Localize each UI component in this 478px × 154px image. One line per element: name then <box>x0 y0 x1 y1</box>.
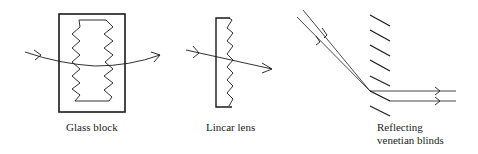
blinds-ray-lower <box>297 17 456 101</box>
blinds-arrow-2 <box>316 36 320 45</box>
linear-lens-figure <box>186 18 272 107</box>
linear-lens-serrations <box>227 18 233 106</box>
venetian-blinds-figure <box>297 10 456 116</box>
glass-block-prism-profile <box>72 20 113 101</box>
glass-block-figure <box>25 14 160 112</box>
linear-lens-body <box>216 18 232 107</box>
venetian-blinds-label-line2: venetian blinds <box>377 134 444 147</box>
blinds-reflector <box>370 91 390 101</box>
venetian-blinds-label-line1: Reflecting <box>377 121 423 134</box>
blind-slats <box>370 15 390 116</box>
glass-block-ray <box>25 52 160 66</box>
linear-lens-label: Lincar lens <box>206 121 255 134</box>
glass-block-label: Glass block <box>66 121 118 134</box>
